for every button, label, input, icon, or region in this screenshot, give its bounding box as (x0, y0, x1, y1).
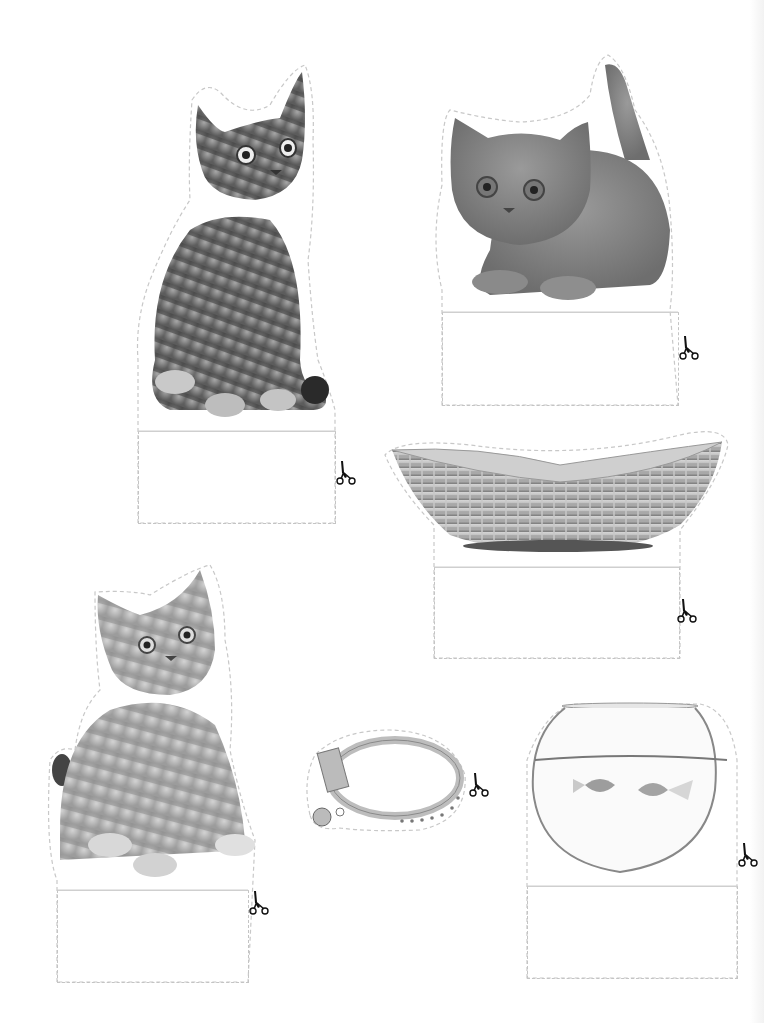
cutout-card-basket (380, 420, 740, 670)
scissors-icon (676, 598, 698, 624)
cutout-card-grey-kitten (430, 50, 710, 420)
scissors-icon (737, 842, 759, 868)
scissors-icon (468, 772, 490, 798)
scissors-icon (248, 890, 270, 916)
scissors-icon (678, 335, 700, 361)
scissors-icon (335, 460, 357, 486)
cutout-card-fishbowl (515, 690, 764, 990)
name-label-box[interactable] (442, 312, 679, 406)
cutout-card-tabby-kitten (130, 60, 360, 530)
cutout-card-collar (300, 720, 500, 840)
cutout-card-striped-kitten (40, 550, 280, 990)
name-label-box[interactable] (138, 431, 336, 524)
name-label-box[interactable] (57, 890, 249, 983)
name-label-box[interactable] (527, 886, 738, 979)
name-label-box[interactable] (434, 567, 680, 659)
